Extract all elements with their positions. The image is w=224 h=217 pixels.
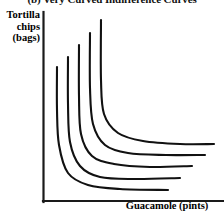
indifference-curve-figure: (b) Very Curved Indifference Curves Tort… [0, 0, 224, 217]
plot-area [0, 0, 224, 217]
indifference-curve-4 [90, 33, 205, 155]
axes [43, 12, 224, 202]
x-axis-label: Guacamole (pints) [110, 200, 224, 211]
indifference-curve-3 [79, 45, 192, 167]
indifference-curve-5 [101, 20, 214, 144]
indifference-curve-2 [68, 57, 180, 179]
indifference-curves [57, 20, 214, 190]
